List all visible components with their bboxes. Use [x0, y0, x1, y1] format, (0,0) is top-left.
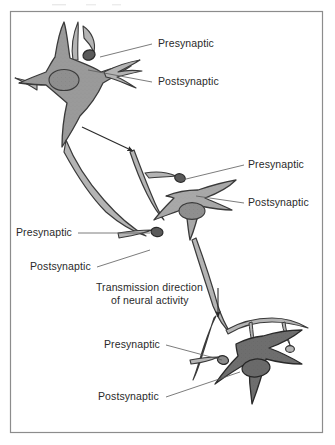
- arrow-axon-1: [82, 127, 133, 151]
- synaptic-transmission-figure: Presynaptic Postsynaptic Presynaptic Pos…: [0, 0, 335, 445]
- neuron-chain-diagram: Presynaptic Postsynaptic Presynaptic Pos…: [0, 0, 335, 445]
- presynaptic-process-middle: [130, 150, 164, 220]
- bouton-bottom-left: [217, 354, 230, 365]
- label-presynaptic-3: Presynaptic: [16, 226, 72, 238]
- bouton-bottom-2: [286, 346, 295, 353]
- nucleus-top-texture: [49, 70, 79, 91]
- label-presynaptic-1: Presynaptic: [158, 37, 214, 49]
- scan-artifacts: [52, 4, 121, 5]
- label-postsynaptic-4: Postsynaptic: [98, 390, 159, 402]
- bouton-middle-left: [150, 226, 164, 237]
- leader-postsynaptic-4: [166, 372, 240, 397]
- nucleus-middle-texture: [179, 203, 205, 220]
- transmission-note-line1: Transmission direction: [96, 281, 203, 293]
- leader-lines: [78, 44, 244, 397]
- axon-terminal-arm-left-middle: [118, 230, 152, 238]
- dendrite-branch-middle-upper: [145, 172, 176, 178]
- neuron-top: [15, 22, 146, 236]
- bouton-middle-upper: [174, 172, 187, 183]
- leader-presynaptic-2: [182, 165, 244, 180]
- leader-presynaptic-4: [166, 345, 222, 360]
- label-presynaptic-2: Presynaptic: [248, 158, 304, 170]
- neuron-bottom: [190, 316, 308, 404]
- label-postsynaptic-1: Postsynaptic: [158, 75, 219, 87]
- label-postsynaptic-3: Postsynaptic: [30, 260, 91, 272]
- presynaptic-process-bottom: [193, 316, 216, 380]
- transmission-note-line2: of neural activity: [111, 294, 189, 306]
- leader-presynaptic-1: [100, 44, 152, 57]
- dendrite-apical: [72, 22, 78, 60]
- leader-postsynaptic-3: [97, 250, 150, 267]
- label-presynaptic-4: Presynaptic: [104, 338, 160, 350]
- afferent-axon-top: [83, 26, 95, 52]
- label-postsynaptic-2: Postsynaptic: [248, 196, 309, 208]
